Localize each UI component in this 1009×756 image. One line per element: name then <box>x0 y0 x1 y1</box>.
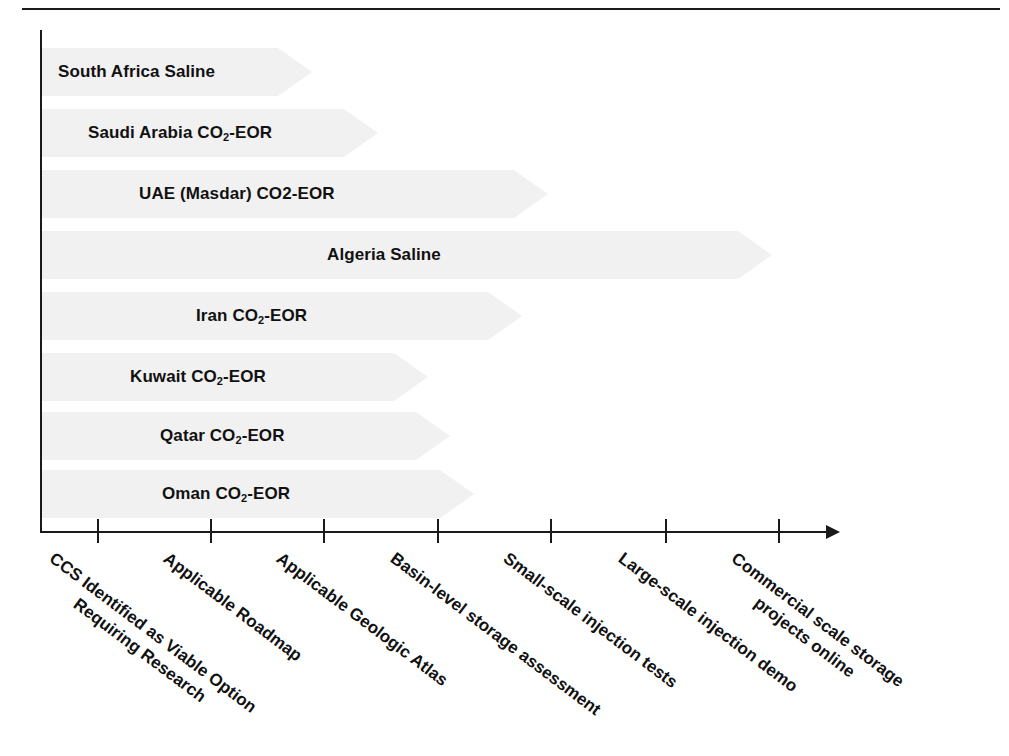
plot-area: South Africa Saline Saudi Arabia CO2-EOR… <box>0 0 1009 756</box>
x-axis-tick-label-group: CCS Identified as Viable Option Requirin… <box>0 0 1009 756</box>
x-axis-tick-label: Commercial scale storage projects online <box>713 548 908 710</box>
tick-label-line-1: Basin-level storage assessment <box>387 549 604 719</box>
x-axis-tick-label: Basin-level storage assessment <box>386 548 605 721</box>
chart-figure: South Africa Saline Saudi Arabia CO2-EOR… <box>0 0 1009 756</box>
tick-label-line-1: CCS Identified as Viable Option <box>46 549 260 717</box>
x-axis-tick-label: CCS Identified as Viable Option Requirin… <box>31 548 260 736</box>
